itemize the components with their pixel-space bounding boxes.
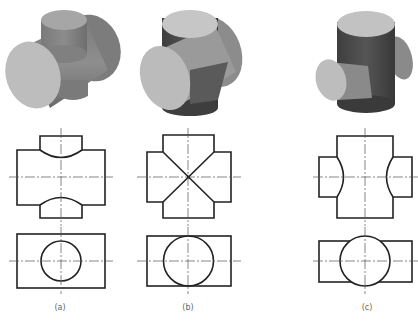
panel-a-top-view: [9, 227, 113, 294]
intersection-diagram: (a) (b) (c): [0, 0, 418, 321]
panel-b-label: (b): [182, 303, 193, 312]
panel-b-isometric: [131, 9, 252, 117]
panel-c-front-view: [313, 128, 418, 226]
panel-a-front-view: [9, 128, 113, 226]
panel-b-front-view: [137, 128, 241, 226]
panel-a-label: (a): [54, 303, 65, 312]
panel-c-label: (c): [362, 303, 373, 312]
panel-c-top-view: [313, 227, 418, 294]
panel-a-isometric: [0, 6, 130, 115]
panel-c-isometric: [311, 11, 417, 113]
panel-b-top-view: [137, 227, 241, 294]
